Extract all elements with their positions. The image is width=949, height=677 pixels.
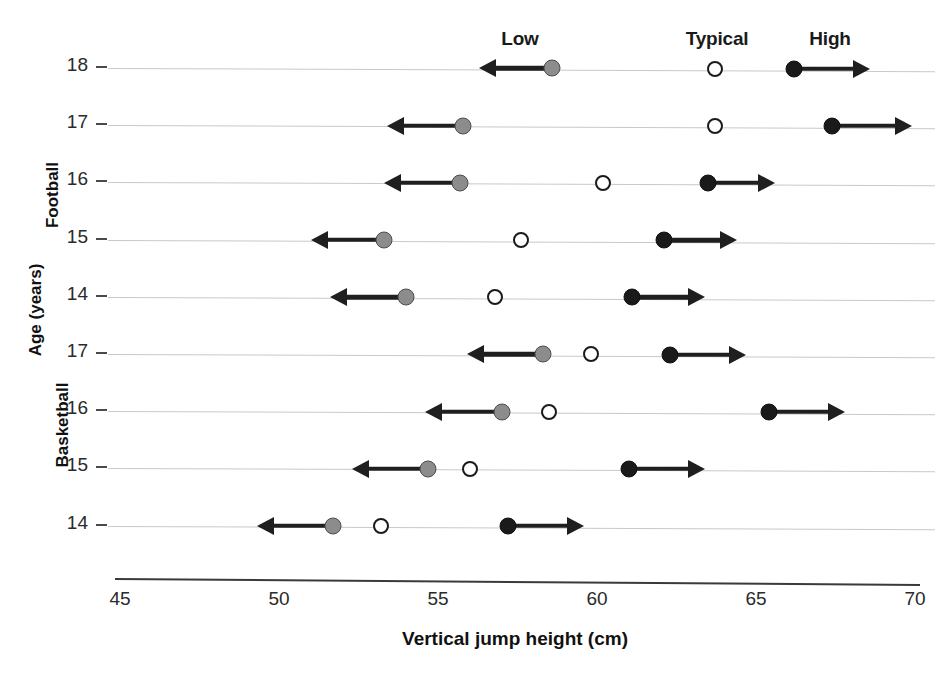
y-tick-mark	[96, 66, 107, 68]
low-arrow-head-left-icon	[311, 231, 328, 249]
marker-low	[420, 460, 437, 477]
marker-low	[534, 346, 551, 363]
y-tick-mark	[96, 295, 107, 297]
high-arrow-head-right-icon	[729, 346, 746, 364]
low-arrow-head-left-icon	[257, 517, 274, 535]
high-arrow-head-right-icon	[895, 117, 912, 135]
high-arrow-head-right-icon	[720, 231, 737, 249]
x-tick-label-55: 55	[427, 588, 448, 610]
y-tick-mark	[96, 524, 107, 526]
x-tick-label-50: 50	[268, 588, 289, 610]
high-arrow-head-right-icon	[758, 174, 775, 192]
row-baseline	[108, 297, 935, 301]
marker-typical	[707, 118, 723, 134]
row-baseline	[108, 125, 935, 129]
marker-low	[455, 117, 472, 134]
marker-high	[786, 60, 803, 77]
group-label-football: Football	[43, 162, 63, 228]
marker-low	[544, 60, 561, 77]
marker-low	[398, 289, 415, 306]
y-tick-label-basketball-17: 17	[48, 340, 88, 362]
x-axis-line	[115, 578, 920, 586]
x-tick-label-65: 65	[745, 588, 766, 610]
group-label-basketball: Basketball	[53, 382, 73, 467]
high-arrow-shaft	[769, 410, 831, 415]
marker-high	[662, 346, 679, 363]
y-tick-label-football-17: 17	[48, 111, 88, 133]
y-tick-label-football-18: 18	[48, 54, 88, 76]
x-tick-label-45: 45	[109, 588, 130, 610]
low-arrow-head-left-icon	[467, 345, 484, 363]
low-arrow-head-left-icon	[384, 174, 401, 192]
column-header-high: High	[809, 28, 850, 50]
row-baseline	[108, 468, 935, 472]
marker-typical	[595, 175, 611, 191]
high-arrow-head-right-icon	[828, 403, 845, 421]
y-tick-mark	[96, 466, 107, 468]
marker-high	[623, 289, 640, 306]
y-axis-title: Age (years)	[26, 264, 46, 357]
high-arrow-shaft	[632, 295, 691, 300]
y-tick-mark	[96, 352, 107, 354]
high-arrow-shaft	[670, 352, 732, 357]
high-arrow-head-right-icon	[688, 288, 705, 306]
y-tick-mark	[96, 180, 107, 182]
x-tick-label-60: 60	[586, 588, 607, 610]
y-tick-label-football-15: 15	[48, 226, 88, 248]
high-arrow-shaft	[629, 467, 691, 472]
high-arrow-shaft	[508, 524, 570, 529]
marker-typical	[462, 461, 478, 477]
column-header-low: Low	[501, 28, 538, 50]
marker-high	[499, 517, 516, 534]
x-tick-label-70: 70	[904, 588, 925, 610]
x-axis-title: Vertical jump height (cm)	[402, 628, 628, 650]
marker-high	[620, 460, 637, 477]
marker-low	[375, 231, 392, 248]
marker-high	[655, 232, 672, 249]
marker-typical	[707, 61, 723, 77]
y-tick-mark	[96, 238, 107, 240]
high-arrow-head-right-icon	[688, 460, 705, 478]
low-arrow-head-left-icon	[425, 403, 442, 421]
marker-high	[760, 403, 777, 420]
y-tick-label-basketball-14: 14	[48, 512, 88, 534]
marker-low	[452, 174, 469, 191]
chart-canvas: LowTypicalHigh181716151417161514Football…	[0, 0, 949, 677]
low-arrow-head-left-icon	[387, 117, 404, 135]
y-tick-label-football-14: 14	[48, 283, 88, 305]
low-arrow-head-left-icon	[479, 59, 496, 77]
y-tick-mark	[96, 409, 107, 411]
low-arrow-head-left-icon	[330, 288, 347, 306]
row-baseline	[108, 182, 935, 186]
marker-low	[325, 517, 342, 534]
marker-typical	[583, 346, 599, 362]
high-arrow-head-right-icon	[567, 517, 584, 535]
marker-high	[824, 117, 841, 134]
high-arrow-shaft	[664, 238, 723, 243]
marker-low	[493, 403, 510, 420]
marker-typical	[487, 289, 503, 305]
y-tick-mark	[96, 123, 107, 125]
marker-high	[700, 174, 717, 191]
marker-typical	[373, 518, 389, 534]
marker-typical	[541, 404, 557, 420]
high-arrow-head-right-icon	[853, 60, 870, 78]
high-arrow-shaft	[794, 66, 856, 71]
column-header-typical: Typical	[686, 28, 749, 50]
high-arrow-shaft	[832, 124, 898, 129]
low-arrow-head-left-icon	[352, 460, 369, 478]
marker-typical	[513, 232, 529, 248]
